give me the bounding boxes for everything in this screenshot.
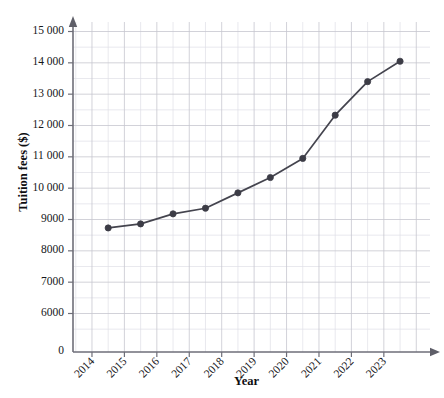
- y-axis-tick-label: 7000: [41, 275, 64, 287]
- x-axis-arrow: [430, 348, 440, 356]
- data-point: [138, 221, 144, 227]
- y-axis-ticks: 600070008000900010 00011 00012 00013 000…: [32, 24, 73, 356]
- y-axis-tick-label: 11 000: [33, 149, 64, 161]
- x-axis-tick-label: 2016: [136, 355, 161, 380]
- x-axis-tick-label: 2015: [104, 355, 129, 380]
- y-axis-tick-label: 13 000: [32, 87, 64, 99]
- y-axis-title: Tuition fees ($): [16, 132, 30, 211]
- data-point: [170, 211, 176, 217]
- axis-origin-label: 0: [58, 344, 64, 356]
- y-axis-tick-label: 12 000: [32, 118, 64, 130]
- x-axis-tick-label: 2020: [266, 355, 291, 380]
- data-point: [300, 155, 306, 161]
- y-axis-arrow: [69, 16, 77, 27]
- y-axis-tick-label: 8000: [41, 243, 64, 255]
- x-axis-tick-label: 2022: [331, 355, 356, 380]
- y-axis-tick-label: 6000: [41, 306, 64, 318]
- data-point: [365, 79, 371, 85]
- data-point: [397, 58, 403, 64]
- x-axis-tick-label: 2017: [169, 355, 194, 380]
- y-axis-tick-label: 15 000: [32, 24, 64, 36]
- data-point: [202, 205, 208, 211]
- y-axis-tick-label: 9000: [41, 212, 64, 224]
- data-point: [267, 174, 273, 180]
- x-axis-title: Year: [234, 374, 259, 388]
- y-axis-tick-label: 10 000: [32, 181, 64, 193]
- tuition-fees-line-chart-figure: 600070008000900010 00011 00012 00013 000…: [0, 0, 444, 398]
- x-axis-tick-label: 2018: [201, 355, 226, 380]
- data-point: [235, 190, 241, 196]
- y-axis-tick-label: 14 000: [32, 55, 64, 67]
- x-axis-tick-label: 2023: [364, 355, 389, 380]
- data-point: [105, 225, 111, 231]
- x-axis-ticks: 2014201520162017201820192020202120222023: [72, 352, 389, 380]
- x-axis-tick-label: 2021: [299, 355, 324, 380]
- data-point: [332, 112, 338, 118]
- x-axis-tick-label: 2014: [72, 355, 97, 380]
- chart-plot-area: 600070008000900010 00011 00012 00013 000…: [0, 0, 444, 398]
